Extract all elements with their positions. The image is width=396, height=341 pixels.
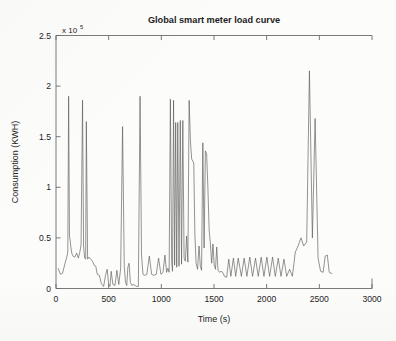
x-tick-label: 2500: [310, 294, 329, 304]
x-tick-label: 500: [101, 294, 116, 304]
y-tick-label: 0: [46, 284, 51, 294]
plot-axes: [56, 36, 372, 289]
x-tick-label: 0: [54, 294, 59, 304]
x-tick-label: 1000: [152, 294, 171, 304]
y-tick-label: 2.5: [39, 31, 51, 41]
y-exponent-base: x 10: [62, 26, 78, 35]
y-exponent-power: 5: [80, 24, 83, 30]
y-axis-exponent-label: x 10 5: [62, 24, 83, 35]
chart-screenshot: Global smart meter load curve x 10 5 00.…: [0, 0, 396, 341]
x-tick-label: 2000: [257, 294, 276, 304]
global-smart-meter-load-curve-chart: Global smart meter load curve x 10 5 00.…: [0, 0, 396, 341]
y-tick-label: 1.5: [39, 132, 51, 142]
chart-title: Global smart meter load curve: [148, 15, 280, 25]
x-tick-label: 3000: [362, 294, 381, 304]
load-curve-series: [58, 71, 332, 287]
y-tick-label: 2: [46, 81, 51, 91]
y-tick-label: 1: [46, 182, 51, 192]
y-axis-title: Consumption (KWH): [10, 121, 20, 204]
y-axis-ticks: 00.511.522.5: [39, 31, 60, 294]
x-axis-title: Time (s): [198, 314, 231, 324]
y-tick-label: 0.5: [39, 233, 51, 243]
x-tick-label: 1500: [204, 294, 223, 304]
